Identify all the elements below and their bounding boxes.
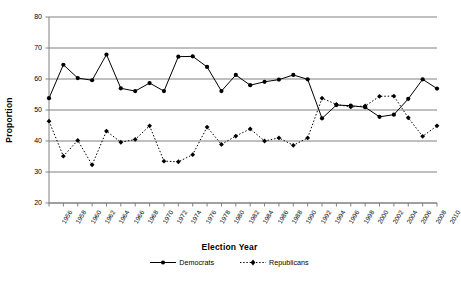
data-point-republicans [291, 143, 296, 148]
data-point-democrats [47, 96, 51, 100]
y-tick-label: 50 [20, 106, 42, 113]
data-point-democrats [377, 115, 381, 119]
data-point-democrats [406, 97, 410, 101]
data-point-democrats [421, 77, 425, 81]
data-point-democrats [205, 65, 209, 69]
data-point-democrats [119, 86, 123, 90]
data-point-democrats [262, 80, 266, 84]
x-axis-title-text: Election Year [202, 242, 258, 252]
data-point-democrats [147, 81, 151, 85]
data-point-republicans [190, 152, 195, 157]
data-point-democrats [291, 73, 295, 77]
data-point-democrats [162, 89, 166, 93]
legend-item-republicans: Republicans [240, 258, 309, 267]
x-axis-title: Election Year [0, 236, 459, 254]
y-tick-label: 40 [20, 137, 42, 144]
data-point-republicans [391, 94, 396, 99]
data-point-republicans [90, 162, 95, 167]
y-tick-label: 60 [20, 75, 42, 82]
data-point-democrats [191, 54, 195, 58]
y-tick-label: 20 [20, 199, 42, 206]
data-point-republicans [75, 138, 80, 143]
data-point-republicans [162, 159, 167, 164]
data-point-republicans [47, 119, 52, 124]
data-point-democrats [133, 89, 137, 93]
data-point-democrats [76, 76, 80, 80]
data-point-republicans [277, 136, 282, 141]
data-point-democrats [234, 73, 238, 77]
data-point-republicans [305, 136, 310, 141]
data-point-democrats [90, 78, 94, 82]
data-point-democrats [104, 52, 108, 56]
y-tick-label: 80 [20, 13, 42, 20]
data-point-democrats [320, 116, 324, 120]
data-point-republicans [233, 134, 238, 139]
data-point-republicans [176, 159, 181, 164]
data-point-republicans [377, 94, 382, 99]
legend-label-democrats: Democrats [179, 258, 214, 267]
legend-item-democrats: Democrats [150, 258, 214, 267]
data-point-democrats [61, 63, 65, 67]
data-point-democrats [176, 55, 180, 59]
data-point-republicans [435, 123, 440, 128]
legend-label-republicans: Republicans [269, 258, 309, 267]
chart-legend: Democrats Republicans [0, 258, 459, 267]
data-point-democrats [277, 78, 281, 82]
data-point-republicans [61, 154, 66, 159]
data-point-democrats [219, 89, 223, 93]
series-line-democrats [49, 55, 437, 119]
data-point-democrats [248, 83, 252, 87]
data-point-democrats [392, 113, 396, 117]
legend-swatch-republicans-icon [240, 258, 266, 267]
legend-swatch-democrats-icon [150, 258, 176, 267]
y-tick-label: 70 [20, 44, 42, 51]
y-tick-label: 30 [20, 168, 42, 175]
data-point-democrats [306, 77, 310, 81]
data-point-republicans [320, 96, 325, 101]
data-point-democrats [435, 87, 439, 91]
